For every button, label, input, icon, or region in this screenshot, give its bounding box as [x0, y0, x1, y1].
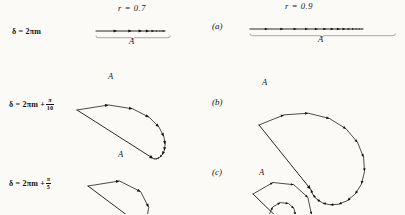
panel-c-right-group [253, 183, 312, 215]
resultant-label-b-left: A [108, 72, 113, 81]
resultant-label-c-right: A [259, 168, 264, 177]
panel-b-right-arrowhead [311, 189, 313, 192]
panel-a-right-arrowhead [343, 28, 346, 30]
panel-c-right-resultant-line [253, 194, 278, 214]
panel-b-left-arrowhead [163, 147, 166, 151]
panel-c-right-arrowhead [294, 212, 296, 214]
panel-b-right-arrowhead [363, 168, 366, 171]
panel-a-right-arrowhead [315, 28, 318, 31]
panel-b-right-arrowhead [281, 115, 284, 117]
panel-a-left-arrowhead [156, 30, 158, 32]
resultant-label-a-right: A [318, 35, 323, 44]
panel-a-right-arrowhead [265, 28, 268, 31]
panel-b-right-arrowhead [305, 112, 308, 115]
panel-b-right-group [259, 112, 366, 206]
resultant-label-c-left: A [118, 150, 123, 159]
panel-b-right-resultant-line [259, 125, 309, 187]
resultant-label-a-left: A [129, 37, 134, 46]
panel-a-right-arrowhead [305, 28, 308, 31]
panel-a-left-arrowhead [139, 30, 142, 33]
panel-a-left-arrowhead [114, 30, 117, 33]
panel-a-right-arrowhead [356, 28, 358, 30]
panel-c-left-resultant-line [88, 186, 129, 214]
panel-a-right-arrowhead [337, 28, 340, 31]
panel-b-right-arrowhead [330, 203, 333, 206]
panel-a-left-arrowhead [128, 30, 131, 33]
panel-c-right-path [253, 183, 311, 215]
panel-a-right-arrowhead [331, 28, 334, 31]
resultant-label-b-right: A [262, 78, 267, 87]
panel-b-left-resultant-line [77, 110, 151, 157]
panel-a-left-arrowhead [146, 30, 149, 33]
panel-a-right-arrowhead [294, 28, 297, 31]
panel-b-left-arrowhead [129, 107, 133, 110]
figure-artwork [0, 0, 405, 214]
panel-a-right-arrowhead [323, 28, 326, 31]
panel-a-right-arrowhead [348, 28, 351, 30]
panel-a-right-arrowhead [280, 28, 283, 31]
panel-b-right-arrowhead [361, 154, 363, 157]
panel-b-left-arrowhead [163, 141, 166, 145]
phasor-spiral-figure: r = 0.7 r = 0.9 δ = 2πm δ = 2πm +π10 δ =… [0, 0, 405, 214]
panel-b-right-arrowhead [339, 202, 342, 204]
panel-a-left-arrowhead [151, 30, 154, 32]
panel-b-left-arrowhead [105, 104, 109, 107]
panel-a-right-arrowhead [352, 28, 354, 30]
panel-a-right-arrowhead [359, 28, 361, 29]
panel-c-left-group [88, 180, 149, 214]
panel-c-left-arrowhead [116, 180, 120, 183]
panel-c-right-arrowhead [310, 211, 312, 214]
panel-b-left-resultant-arrowhead [149, 155, 153, 159]
